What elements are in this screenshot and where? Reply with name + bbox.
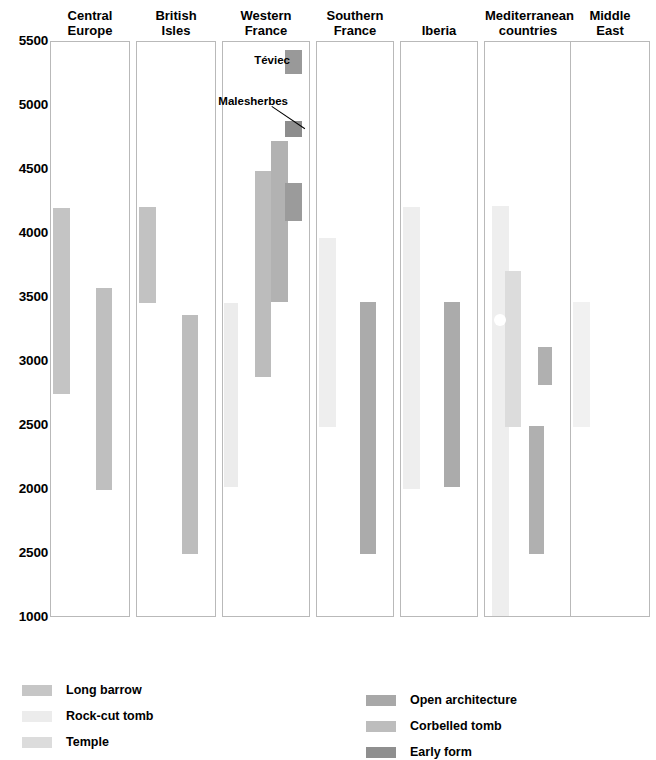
bar-rock_cut_tomb bbox=[224, 303, 238, 487]
panel-middle-east: Middle East bbox=[570, 41, 650, 617]
panel-plot-area bbox=[137, 42, 215, 616]
legend-swatch-rock-cut-tomb bbox=[22, 711, 52, 722]
bar-rock_cut_tomb bbox=[403, 207, 420, 489]
legend-item-rock-cut-tomb[interactable]: Rock-cut tomb bbox=[22, 708, 154, 724]
panel-plot-area bbox=[223, 42, 309, 616]
legend-item-open-architecture[interactable]: Open architecture bbox=[366, 692, 517, 708]
bar-corbelled_tomb bbox=[538, 347, 552, 385]
chart-legend: Long barrowRock-cut tombTempleOpen archi… bbox=[0, 676, 656, 754]
y-axis-tick-label: 1000 bbox=[2, 610, 48, 624]
bar-early_form bbox=[285, 183, 302, 221]
bar-open_architecture bbox=[360, 302, 376, 554]
bar-temple bbox=[505, 271, 521, 427]
legend-label: Corbelled tomb bbox=[410, 720, 502, 733]
legend-item-early-form[interactable]: Early form bbox=[366, 744, 472, 760]
legend-label: Early form bbox=[410, 746, 472, 759]
legend-label: Temple bbox=[66, 736, 109, 749]
y-axis-tick-label: 2500 bbox=[2, 546, 48, 560]
legend-label: Long barrow bbox=[66, 684, 142, 697]
y-axis-tick-label: 2500 bbox=[2, 418, 48, 432]
annotation-label: Malesherbes bbox=[210, 96, 288, 108]
panel-central-europe: Central Europe bbox=[50, 41, 130, 617]
bar-rock_cut_tomb bbox=[319, 238, 336, 427]
panel-plot-area bbox=[51, 42, 129, 616]
legend-label: Open architecture bbox=[410, 694, 517, 707]
bar-long_barrow bbox=[139, 207, 156, 303]
y-axis-tick-label: 4000 bbox=[2, 226, 48, 240]
panel-iberia: Iberia bbox=[400, 41, 478, 617]
panel-plot-area bbox=[401, 42, 477, 616]
panel-plot-area bbox=[571, 42, 649, 616]
legend-swatch-temple bbox=[22, 737, 52, 748]
annotation-label: Téviec bbox=[230, 55, 290, 67]
panel-plot-area bbox=[485, 42, 571, 616]
legend-swatch-open-architecture bbox=[366, 695, 396, 706]
legend-item-long-barrow[interactable]: Long barrow bbox=[22, 682, 142, 698]
legend-label: Rock-cut tomb bbox=[66, 710, 154, 723]
panel-plot-area bbox=[317, 42, 393, 616]
bar-rock_cut_tomb bbox=[573, 302, 590, 427]
panel-western-france: Western France bbox=[222, 41, 310, 617]
bar-open_architecture bbox=[96, 288, 112, 490]
bar-open_architecture bbox=[444, 302, 460, 488]
panel-southern-france: Southern France bbox=[316, 41, 394, 617]
panel-title: British Isles bbox=[137, 9, 215, 42]
bar-long_barrow bbox=[53, 208, 70, 394]
y-axis-tick-label: 3500 bbox=[2, 290, 48, 304]
bar-open_architecture bbox=[182, 315, 198, 554]
y-axis-tick-label: 4500 bbox=[2, 162, 48, 176]
bar-open_architecture bbox=[529, 426, 544, 554]
legend-swatch-early-form bbox=[366, 747, 396, 758]
legend-item-temple[interactable]: Temple bbox=[22, 734, 109, 750]
panel-title: Central Europe bbox=[51, 9, 129, 42]
panel-title: Middle East bbox=[571, 9, 649, 42]
y-axis-tick-label: 2000 bbox=[2, 482, 48, 496]
panel-title: Western France bbox=[223, 9, 309, 42]
panel-british-isles: British Isles bbox=[136, 41, 216, 617]
legend-item-corbelled-tomb[interactable]: Corbelled tomb bbox=[366, 718, 502, 734]
y-axis: 5500500045004000350030002500200025001000 bbox=[0, 0, 48, 754]
marker-circle bbox=[494, 314, 506, 326]
legend-swatch-corbelled-tomb bbox=[366, 721, 396, 732]
panel-title: Iberia bbox=[401, 24, 477, 42]
panel-title: Southern France bbox=[317, 9, 393, 42]
bar-corbelled_tomb bbox=[255, 171, 271, 377]
y-axis-tick-label: 5000 bbox=[2, 98, 48, 112]
panel-title: Mediterranean countries bbox=[485, 9, 571, 42]
y-axis-tick-label: 3000 bbox=[2, 354, 48, 368]
panel-mediterranean-countries: Mediterranean countries bbox=[484, 41, 572, 617]
y-axis-tick-label: 5500 bbox=[2, 34, 48, 48]
legend-swatch-long-barrow bbox=[22, 685, 52, 696]
